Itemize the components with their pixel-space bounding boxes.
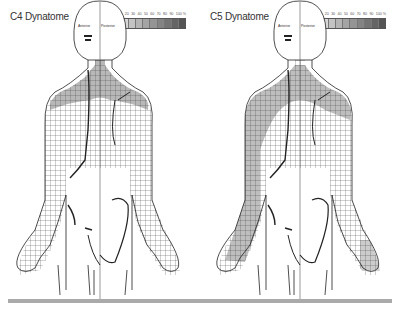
svg-text:Anterior: Anterior <box>278 24 291 28</box>
svg-text:Anterior: Anterior <box>78 24 91 28</box>
svg-text:Posterior: Posterior <box>301 24 316 28</box>
svg-text:Posterior: Posterior <box>101 24 116 28</box>
c5-dynatome-panel: C5 Dynatome 0 10 20 30 40 50 60 70 80 90… <box>200 0 400 300</box>
body-diagram: Anterior Posterior <box>200 0 400 300</box>
body-diagram: Anterior Posterior <box>0 0 200 300</box>
bottom-divider <box>8 299 392 303</box>
c4-dynatome-panel: C4 Dynatome 0 10 20 30 40 50 60 70 80 90… <box>0 0 200 300</box>
